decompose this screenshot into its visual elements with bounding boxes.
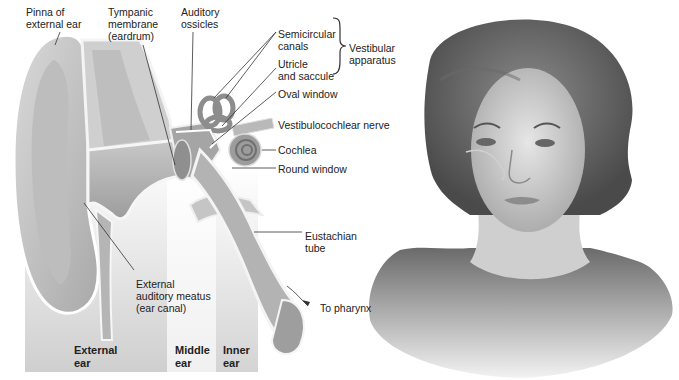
region-external-line2: ear <box>74 357 117 370</box>
portrait-illustration <box>369 19 673 378</box>
label-vestibulocochlear-nerve: Vestibulocochlear nerve <box>278 119 390 131</box>
region-middle-line2: ear <box>175 357 210 370</box>
label-eustachian-line2: tube <box>305 242 357 254</box>
region-inner-line2: ear <box>223 357 250 370</box>
label-meatus-line1: External <box>136 278 211 290</box>
label-ossicles-line2: ossicles <box>181 18 220 30</box>
label-external-auditory-meatus: External auditory meatus (ear canal) <box>136 278 211 314</box>
label-auditory-ossicles: Auditory ossicles <box>181 6 220 30</box>
label-tympanic-line3: (eardrum) <box>108 30 158 42</box>
label-vestibular-apparatus: Vestibular apparatus <box>349 42 396 66</box>
label-pinna-line2: external ear <box>26 18 81 30</box>
label-vestibular-line1: Vestibular <box>349 42 396 54</box>
label-to-pharynx: To pharynx <box>320 302 371 314</box>
label-vestibular-line2: apparatus <box>349 54 396 66</box>
label-oval-window: Oval window <box>278 88 338 100</box>
region-inner-line1: Inner <box>223 344 250 357</box>
label-eustachian-tube: Eustachian tube <box>305 230 357 254</box>
region-label-inner-ear: Inner ear <box>223 344 250 370</box>
label-tympanic-membrane: Tympanic membrane (eardrum) <box>108 6 158 42</box>
label-meatus-line3: (ear canal) <box>136 302 211 314</box>
label-ossicles-line1: Auditory <box>181 6 220 18</box>
region-external-line1: External <box>74 344 117 357</box>
label-semicircular-line2: canals <box>278 40 336 52</box>
label-semicircular-line1: Semicircular <box>278 28 336 40</box>
region-label-external-ear: External ear <box>74 344 117 370</box>
label-pinna: Pinna of external ear <box>26 6 81 30</box>
label-semicircular-canals: Semicircular canals <box>278 28 336 52</box>
ear-anatomy-illustration <box>0 0 679 380</box>
label-round-window: Round window <box>278 163 347 175</box>
label-tympanic-line2: membrane <box>108 18 158 30</box>
region-middle-line1: Middle <box>175 344 210 357</box>
semicircular-canals-shape <box>200 96 233 131</box>
region-label-middle-ear: Middle ear <box>175 344 210 370</box>
cochlea-shape <box>229 134 261 166</box>
label-meatus-line2: auditory meatus <box>136 290 211 302</box>
label-utricle-saccule: Utricle and saccule <box>278 58 334 82</box>
label-pinna-line1: Pinna of <box>26 6 81 18</box>
label-tympanic-line1: Tympanic <box>108 6 158 18</box>
label-eustachian-line1: Eustachian <box>305 230 357 242</box>
label-cochlea: Cochlea <box>278 144 317 156</box>
label-utricle-line2: and saccule <box>278 70 334 82</box>
label-utricle-line1: Utricle <box>278 58 334 70</box>
